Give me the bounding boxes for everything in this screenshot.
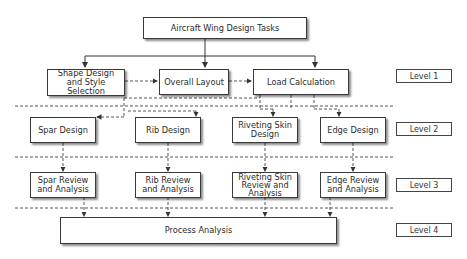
- riveting-skin-review-box: Riveting Skin Review and Analysis: [232, 172, 298, 198]
- overall-layout-box: Overall Layout: [159, 69, 229, 95]
- level-4-label: Level 4: [396, 223, 452, 237]
- load-calculation-box: Load Calculation: [253, 69, 349, 95]
- riveting-skin-design-box: Riveting Skin Design: [232, 117, 298, 143]
- level-3-label: Level 3: [396, 178, 452, 192]
- root-task-box: Aircraft Wing Design Tasks: [143, 17, 307, 39]
- process-analysis-box: Process Analysis: [60, 217, 337, 244]
- edge-review-box: Edge Review and Analysis: [320, 172, 386, 198]
- shape-design-box: Shape Design and Style Selection: [47, 69, 125, 96]
- spar-review-box: Spar Review and Analysis: [30, 172, 96, 198]
- rib-design-box: Rib Design: [135, 117, 201, 143]
- rib-review-box: Rib Review and Analysis: [135, 172, 201, 198]
- edge-design-box: Edge Design: [320, 117, 386, 143]
- level-1-label: Level 1: [396, 69, 452, 83]
- level-2-label: Level 2: [396, 122, 452, 136]
- spar-design-box: Spar Design: [30, 117, 96, 143]
- wing-design-task-diagram: Aircraft Wing Design Tasks Shape Design …: [0, 0, 467, 259]
